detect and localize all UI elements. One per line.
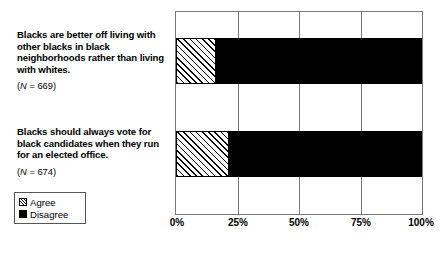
bar-row-1 [176,38,422,84]
bar-segment-disagree-1 [215,38,422,84]
legend-swatch-agree-icon [19,198,27,206]
n-symbol: N [20,167,27,177]
xtick-label-1: 25% [228,217,248,228]
sample-size-1: (N = 669) [17,80,169,92]
xtick-label-4: 100% [408,217,434,228]
sample-size-2: (N = 674) [17,166,169,178]
legend-label-disagree: Disagree [30,209,68,220]
category-label-1: Blacks are better off living with other … [17,29,169,92]
xtick-label-0: 0% [170,217,184,228]
bar-row-2 [176,131,422,177]
question-text-2: Blacks should always vote for black cand… [17,126,169,161]
bar-segment-agree-2 [176,131,228,177]
legend-label-agree: Agree [30,197,56,208]
legend-item-disagree: Disagree [19,208,80,220]
legend-swatch-disagree-icon [19,210,27,218]
plot-area [175,11,423,215]
question-text-1: Blacks are better off living with other … [17,29,169,75]
legend-item-agree: Agree [19,196,80,208]
n-symbol: N [20,81,27,91]
bar-segment-disagree-2 [228,131,422,177]
category-label-2: Blacks should always vote for black cand… [17,126,169,178]
stacked-bar-chart-figure: Blacks are better off living with other … [0,0,442,253]
xtick-label-3: 75% [351,217,371,228]
bar-segment-agree-1 [176,38,215,84]
xtick-label-2: 50% [289,217,309,228]
n-value: = 669) [27,81,56,91]
chart-legend: Agree Disagree [14,192,86,224]
n-value: = 674) [27,167,56,177]
